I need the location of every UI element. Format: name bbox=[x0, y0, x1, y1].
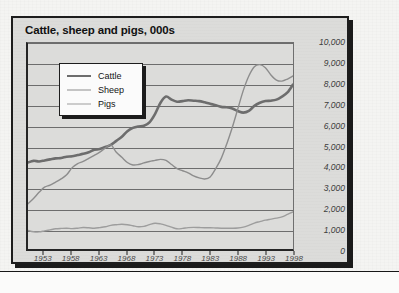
chart-legend: Cattle Sheep Pigs bbox=[59, 63, 143, 116]
y-axis-tick-label: 1,000 bbox=[299, 225, 345, 235]
legend-item-sheep: Sheep bbox=[66, 83, 136, 97]
legend-swatch-cattle-icon bbox=[66, 72, 92, 80]
x-axis-tick-label: 1963 bbox=[90, 254, 108, 263]
x-axis-tick-label: 1993 bbox=[257, 254, 275, 263]
series-line-pigs bbox=[28, 212, 293, 232]
x-axis-tick-label: 1973 bbox=[146, 254, 164, 263]
y-axis-tick-label: 2,000 bbox=[299, 204, 345, 214]
y-axis-tick-label: 8,000 bbox=[299, 79, 345, 89]
legend-swatch-sheep-icon bbox=[66, 86, 92, 94]
legend-swatch-pigs-icon bbox=[66, 100, 92, 108]
x-axis-tick-label: 1953 bbox=[34, 254, 52, 263]
page-bottom-strip bbox=[0, 272, 399, 293]
y-axis-tick-label: 0 bbox=[299, 246, 345, 256]
x-axis-tick-label: 1958 bbox=[62, 254, 80, 263]
legend-label-sheep: Sheep bbox=[98, 85, 124, 95]
x-axis-tick-label: 1978 bbox=[173, 254, 191, 263]
legend-item-cattle: Cattle bbox=[66, 69, 136, 83]
chart-figure: Cattle, sheep and pigs, 000s 10,0009,000… bbox=[11, 16, 349, 264]
x-axis-tick-label: 1983 bbox=[201, 254, 219, 263]
x-axis-tick-label: 1988 bbox=[229, 254, 247, 263]
y-axis-tick-label: 10,000 bbox=[299, 37, 345, 47]
chart-title: Cattle, sheep and pigs, 000s bbox=[25, 24, 175, 36]
y-axis: 10,0009,0008,0007,0006,0005,0004,0003,00… bbox=[299, 42, 345, 251]
legend-label-cattle: Cattle bbox=[98, 71, 122, 81]
y-axis-tick-label: 3,000 bbox=[299, 183, 345, 193]
y-axis-tick-label: 4,000 bbox=[299, 162, 345, 172]
x-axis-tick-label: 1968 bbox=[118, 254, 136, 263]
y-axis-tick-label: 7,000 bbox=[299, 100, 345, 110]
y-axis-tick-label: 9,000 bbox=[299, 58, 345, 68]
legend-label-pigs: Pigs bbox=[98, 99, 116, 109]
y-axis-tick-label: 6,000 bbox=[299, 121, 345, 131]
legend-item-pigs: Pigs bbox=[66, 97, 136, 111]
x-axis: 1953195819631968197319781983198819931998 bbox=[26, 254, 294, 268]
x-axis-tick-label: 1998 bbox=[285, 254, 303, 263]
y-axis-tick-label: 5,000 bbox=[299, 142, 345, 152]
page-background: Cattle, sheep and pigs, 000s 10,0009,000… bbox=[0, 0, 399, 293]
